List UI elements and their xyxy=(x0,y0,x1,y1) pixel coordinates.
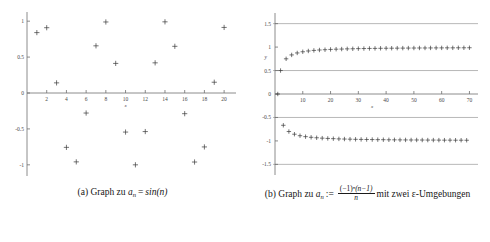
svg-text:x: x xyxy=(370,104,374,109)
svg-text:1: 1 xyxy=(268,44,271,50)
caption-b: (b) Graph zu an:=(−1)n(n−1)nmit zwei ε-U… xyxy=(245,186,490,203)
caption-b-rel: := xyxy=(324,189,336,199)
svg-text:-1: -1 xyxy=(266,138,271,144)
svg-text:-1.5: -1.5 xyxy=(262,161,271,167)
svg-text:12: 12 xyxy=(143,96,149,102)
caption-a-label: (a) xyxy=(78,187,89,197)
scatter-plot-sin: 246810121416182010.50-0.5-1x xyxy=(0,0,245,182)
svg-text:1.5: 1.5 xyxy=(264,21,271,27)
svg-text:-0.5: -0.5 xyxy=(262,114,271,120)
caption-a: (a) Graph zu an=sin(n) xyxy=(0,186,245,201)
caption-a-rel: = xyxy=(136,187,145,197)
svg-text:60: 60 xyxy=(439,97,445,103)
caption-a-text: Graph zu xyxy=(90,187,125,197)
svg-text:x: x xyxy=(123,103,127,108)
svg-text:-1: -1 xyxy=(19,162,24,168)
caption-b-fraction: (−1)n(n−1)n xyxy=(338,185,375,202)
svg-text:8: 8 xyxy=(104,96,107,102)
svg-text:2: 2 xyxy=(45,96,48,102)
caption-b-num-rest: (n−1) xyxy=(355,184,372,193)
svg-text:6: 6 xyxy=(85,96,88,102)
svg-text:40: 40 xyxy=(383,97,389,103)
svg-text:20: 20 xyxy=(221,96,227,102)
caption-b-num-base: (−1) xyxy=(340,184,353,193)
caption-b-text: Graph zu xyxy=(278,189,313,199)
svg-text:10: 10 xyxy=(123,96,129,102)
figure-row: 246810121416182010.50-0.5-1x (a) Graph z… xyxy=(0,0,490,242)
svg-text:0.5: 0.5 xyxy=(264,68,271,74)
svg-text:10: 10 xyxy=(300,97,306,103)
svg-text:0: 0 xyxy=(21,90,24,96)
svg-text:4: 4 xyxy=(65,96,68,102)
svg-text:14: 14 xyxy=(162,96,168,102)
caption-b-den: n xyxy=(338,193,375,202)
svg-text:70: 70 xyxy=(467,97,473,103)
svg-text:0: 0 xyxy=(268,91,271,97)
svg-text:18: 18 xyxy=(202,96,208,102)
svg-text:0.5: 0.5 xyxy=(17,54,24,60)
caption-b-tail: mit zwei ε-Umgebungen xyxy=(377,189,471,199)
svg-text:50: 50 xyxy=(411,97,417,103)
svg-text:30: 30 xyxy=(356,97,362,103)
chart-sin-n: 246810121416182010.50-0.5-1x xyxy=(0,0,245,182)
caption-a-expr: sin(n) xyxy=(145,187,167,197)
svg-text:y: y xyxy=(264,54,268,60)
figure-panel-a: 246810121416182010.50-0.5-1x (a) Graph z… xyxy=(0,0,245,242)
svg-text:-0.5: -0.5 xyxy=(15,126,24,132)
caption-b-label: (b) xyxy=(265,189,276,199)
figure-panel-b: 102030405060701.510.50-0.5-1-1.5xy (b) G… xyxy=(245,0,490,242)
chart-alternating-sequence: 102030405060701.510.50-0.5-1-1.5xy xyxy=(245,0,490,182)
svg-text:1: 1 xyxy=(21,18,24,24)
svg-text:20: 20 xyxy=(328,97,334,103)
scatter-plot-epsilon: 102030405060701.510.50-0.5-1-1.5xy xyxy=(245,0,490,182)
svg-text:16: 16 xyxy=(182,96,188,102)
